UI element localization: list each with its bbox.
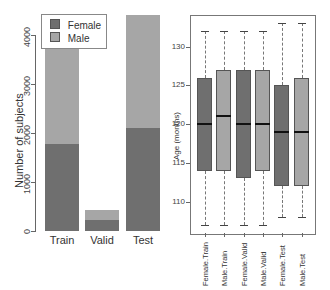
bar-female-test	[126, 128, 160, 231]
median-female-train	[197, 123, 212, 125]
whisker-lower-female-train	[205, 171, 206, 225]
legend-label-male: Male	[68, 33, 90, 44]
box-male-train	[216, 70, 231, 171]
box-male-valid	[255, 70, 270, 171]
legend-item-male: Male	[50, 32, 89, 45]
right-chart: Age (months) 110115120125130 Female.Trai…	[170, 0, 330, 290]
x-label-valid: Valid	[85, 234, 119, 246]
right-y-tick-label: 115	[170, 158, 185, 167]
box-female-test	[274, 85, 289, 186]
cap-lower-male-test	[298, 217, 306, 218]
whisker-lower-female-valid	[244, 178, 245, 225]
right-x-tick	[244, 233, 245, 237]
cap-lower-male-train	[220, 225, 228, 226]
bar-female-train	[45, 144, 79, 231]
right-y-tick-label: 120	[170, 119, 185, 128]
whisker-upper-female-test	[282, 23, 283, 85]
median-male-test	[294, 131, 309, 133]
whisker-upper-female-train	[205, 31, 206, 78]
right-y-tick-label: 125	[170, 80, 185, 89]
right-x-tick	[205, 233, 206, 237]
whisker-upper-male-test	[302, 23, 303, 77]
left-chart: Number of subjects 01000200030004000 Tra…	[0, 0, 170, 250]
cap-upper-female-valid	[240, 31, 248, 32]
whisker-upper-male-train	[224, 31, 225, 70]
bar-male-valid	[85, 210, 119, 220]
cap-upper-male-valid	[259, 31, 267, 32]
cap-upper-female-test	[278, 23, 286, 24]
legend: Female Male	[41, 14, 107, 49]
right-y-tick	[186, 163, 190, 164]
right-x-tick	[302, 233, 303, 237]
left-y-tick-label: 4000	[22, 27, 32, 47]
whisker-upper-female-valid	[244, 31, 245, 70]
whisker-lower-male-train	[224, 171, 225, 225]
right-x-tick	[263, 233, 264, 237]
left-y-tick-label: 0	[22, 229, 32, 234]
x-label-female-valid: Female.Valid	[240, 243, 249, 286]
whisker-lower-male-test	[302, 186, 303, 217]
legend-label-female: Female	[68, 20, 101, 31]
legend-swatch-male	[50, 32, 60, 42]
cap-upper-male-train	[220, 31, 228, 32]
median-female-test	[274, 131, 289, 133]
right-y-tick-label: 130	[170, 42, 185, 51]
cap-upper-female-train	[201, 31, 209, 32]
left-y-axis-line	[35, 35, 36, 232]
cap-lower-female-train	[201, 225, 209, 226]
right-y-tick	[186, 202, 190, 203]
right-y-tick	[186, 124, 190, 125]
median-female-valid	[236, 123, 251, 125]
left-y-tick-label: 3000	[22, 76, 32, 96]
x-label-female-test: Female.Test	[278, 245, 287, 286]
right-y-tick	[186, 85, 190, 86]
bar-male-train	[45, 49, 79, 144]
right-y-tick-label: 110	[170, 197, 185, 206]
legend-swatch-female	[50, 19, 60, 29]
right-x-tick	[282, 233, 283, 237]
legend-item-female: Female	[50, 19, 101, 32]
whisker-lower-male-valid	[263, 171, 264, 225]
cap-lower-male-valid	[259, 225, 267, 226]
left-y-tick-label: 2000	[22, 125, 32, 145]
x-label-test: Test	[126, 234, 160, 246]
x-label-female-train: Female.Train	[201, 242, 210, 286]
median-male-valid	[255, 123, 270, 125]
median-male-train	[216, 115, 231, 117]
cap-lower-female-valid	[240, 225, 248, 226]
bar-female-valid	[85, 220, 119, 231]
x-label-male-test: Male.Test	[298, 254, 307, 286]
right-y-tick	[186, 47, 190, 48]
whisker-lower-female-test	[282, 186, 283, 217]
x-label-male-valid: Male.Valid	[259, 252, 268, 286]
cap-upper-male-test	[298, 23, 306, 24]
whisker-upper-male-valid	[263, 31, 264, 70]
right-x-tick	[224, 233, 225, 237]
x-label-train: Train	[45, 234, 79, 246]
cap-lower-female-test	[278, 217, 286, 218]
x-label-male-train: Male.Train	[220, 251, 229, 286]
bar-male-test	[126, 15, 160, 128]
left-y-tick-label: 1000	[22, 174, 32, 194]
